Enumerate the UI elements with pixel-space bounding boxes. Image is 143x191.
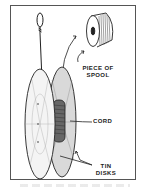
label-line: DISKS [95, 170, 117, 177]
label-line: PIECE OF [78, 65, 118, 72]
label-line: SPOOL [78, 72, 118, 79]
tin-disk-front-icon [25, 69, 55, 179]
caption-faint [20, 184, 130, 187]
spool-piece-icon [87, 13, 113, 47]
yo-yo-illustration [0, 0, 143, 191]
label-line: TIN [95, 163, 117, 170]
label-cord: CORD [93, 118, 112, 125]
label-piece-of-spool: PIECE OF SPOOL [78, 65, 118, 79]
label-tin-disks: TIN DISKS [95, 163, 117, 177]
loop-knot-icon [37, 13, 43, 33]
